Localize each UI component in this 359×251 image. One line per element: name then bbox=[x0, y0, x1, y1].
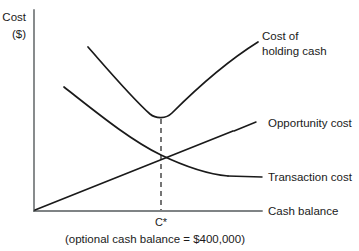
series-cost-of-holding-cash-label-line-1: Cost of bbox=[262, 30, 299, 42]
series-cost-of-holding-cash-label-line-2: holding cash bbox=[262, 45, 327, 57]
series-cost-of-holding-cash-curve bbox=[88, 42, 258, 118]
series-transaction-cost-label: Transaction cost bbox=[268, 171, 353, 183]
series-opportunity-cost-leader bbox=[234, 122, 256, 131]
series-transaction-cost-curve bbox=[64, 87, 228, 176]
x-axis-tick-c-star: C* bbox=[155, 216, 168, 228]
series-opportunity-cost-label: Opportunity cost bbox=[268, 117, 353, 129]
x-axis-title: Cash balance bbox=[268, 205, 338, 217]
cash-balance-cost-figure: Cost ($) Cash balance Cost of holding ca… bbox=[0, 0, 359, 251]
cost-curve-chart: Cost ($) Cash balance Cost of holding ca… bbox=[0, 0, 359, 251]
optimal-balance-caption: (optional cash balance = $400,000) bbox=[65, 233, 245, 245]
series-transaction-cost-leader bbox=[228, 176, 262, 177]
y-axis-title-line-1: Cost bbox=[2, 11, 26, 23]
y-axis-title-line-2: ($) bbox=[12, 28, 26, 40]
